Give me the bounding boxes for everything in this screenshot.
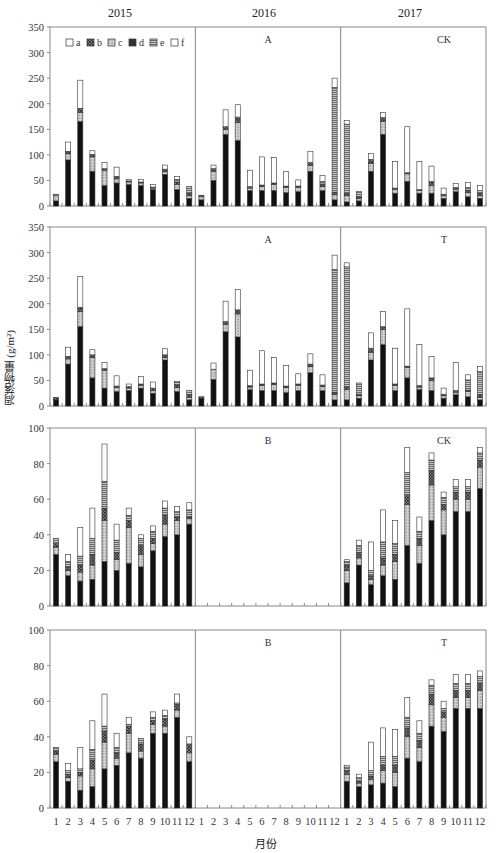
bar-segment-b (175, 385, 180, 388)
bar-segment-d (405, 181, 410, 206)
bar-segment-e (187, 510, 192, 517)
bar-segment-c (381, 771, 386, 783)
bar-segment-c (175, 185, 180, 190)
bar-segment-e (356, 778, 361, 782)
bar-segment-e (368, 570, 373, 575)
bar-segment-f (272, 357, 277, 383)
bar-segment-f (102, 363, 107, 369)
bar-segment-e (138, 538, 143, 545)
bar-segment-b (54, 544, 59, 548)
bar-segment-f (441, 701, 446, 708)
bar-segment-d (150, 393, 155, 406)
bar-segment-e (344, 267, 349, 387)
bar-segment-b (381, 558, 386, 565)
bar-segment-b (405, 496, 410, 505)
bar-segment-d (417, 762, 422, 808)
bar-segment-f (308, 354, 313, 364)
bar-segment-f (332, 255, 337, 269)
bar-segment-d (90, 787, 95, 808)
bar-segment-e (332, 269, 337, 392)
svg-text:4: 4 (235, 816, 241, 827)
bar-segment-f (368, 333, 373, 348)
bar-segment-f (393, 521, 398, 544)
bar-segment-f (150, 712, 155, 717)
svg-text:B: B (265, 435, 272, 446)
svg-text:2: 2 (211, 816, 216, 827)
bar-segment-c (320, 387, 325, 391)
svg-text:50: 50 (34, 175, 45, 186)
bar-segment-e (102, 726, 107, 731)
bar-segment-c (163, 524, 168, 536)
bar-segment-e (90, 749, 95, 760)
bar-segment-b (102, 508, 107, 520)
bar-segment-e (453, 683, 458, 690)
bar-segment-d (175, 717, 180, 808)
bar-segment-f (235, 289, 240, 309)
svg-text:350: 350 (28, 222, 44, 233)
bar-segment-b (187, 193, 192, 196)
bar-segment-b (405, 728, 410, 737)
bar-segment-c (453, 698, 458, 709)
bar-segment-f (368, 742, 373, 770)
svg-text:5: 5 (247, 816, 252, 827)
bar-segment-f (296, 374, 301, 384)
bar-segment-c (465, 193, 470, 197)
bar-segment-c (114, 179, 119, 183)
bar-segment-c (465, 499, 470, 511)
svg-text:c: c (118, 37, 123, 48)
bar-segment-c (138, 183, 143, 186)
bar-segment-e (175, 512, 180, 517)
bar-segment-d (441, 535, 446, 606)
svg-text:11: 11 (172, 816, 182, 827)
svg-text:T: T (441, 234, 447, 245)
bar-segment-d (320, 191, 325, 206)
bar-segment-f (453, 183, 458, 187)
bar-segment-b (344, 771, 349, 775)
bar-segment-d (259, 191, 264, 206)
bar-segment-d (272, 391, 277, 406)
bar-segment-f (465, 675, 470, 684)
bar-segment-b (477, 683, 482, 690)
svg-text:A: A (264, 234, 272, 245)
bar-segment-b (150, 721, 155, 725)
bar-segment-f (417, 345, 422, 386)
bar-segment-f (417, 721, 422, 733)
bar-segment-e (66, 562, 71, 567)
svg-text:250: 250 (28, 73, 44, 84)
bar-segment-d (356, 398, 361, 406)
bar-segment-d (368, 171, 373, 206)
bar-segment-c (320, 187, 325, 191)
bar-segment-d (393, 193, 398, 206)
bar-segment-c (66, 778, 71, 782)
bar-segment-c (393, 772, 398, 786)
bar-segment-d (356, 787, 361, 808)
bar-segment-e (163, 715, 168, 719)
bar-segment-b (477, 460, 482, 467)
bar-segment-e (429, 685, 434, 694)
bar-segment-c (199, 197, 204, 200)
bar-segment-d (284, 193, 289, 206)
bar-segment-d (453, 512, 458, 606)
bar-segment-d (66, 364, 71, 406)
bar-segment-c (175, 388, 180, 392)
bar-segment-b (66, 567, 71, 571)
bar-segment-c (187, 519, 192, 524)
bar-segment-c (235, 314, 240, 337)
bar-segment-c (150, 544, 155, 551)
bar-segment-c (429, 186, 434, 194)
bar-segment-e (54, 538, 59, 543)
bar-segment-c (223, 324, 228, 332)
bar-segment-f (417, 517, 422, 531)
svg-text:CK: CK (437, 34, 452, 45)
bar-segment-c (114, 388, 119, 392)
chart-panel-1: 050100150200250300350ACK (28, 22, 486, 212)
stacked-bar-chart: 050100150200250300350ACK0501001502002503… (0, 0, 499, 853)
bar-segment-b (78, 108, 83, 112)
bar-segment-d (126, 391, 131, 406)
bar-segment-c (114, 758, 119, 765)
bar-segment-d (54, 201, 59, 206)
bar-segment-e (465, 380, 470, 390)
bar-segment-f (102, 444, 107, 481)
bar-segment-d (381, 345, 386, 406)
bar-segment-d (175, 392, 180, 406)
